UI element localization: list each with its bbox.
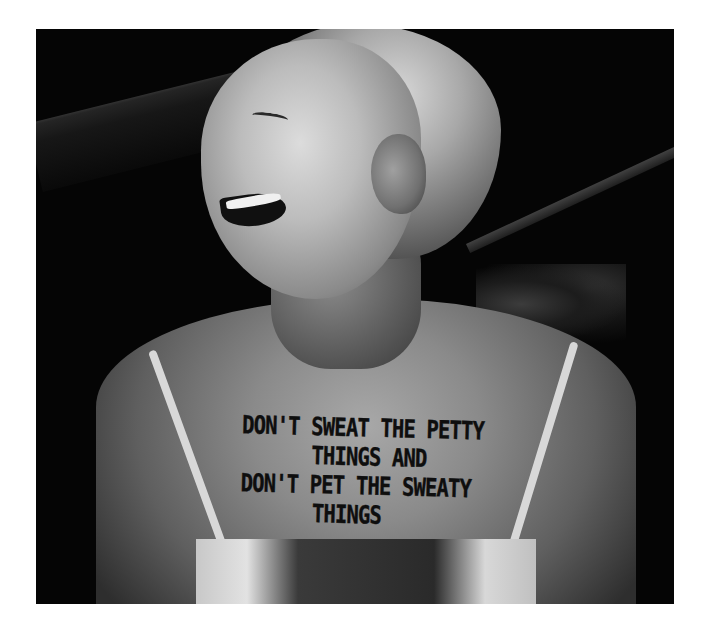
chest-text-line-4: THINGS: [312, 499, 500, 533]
camisole-top: [196, 539, 536, 604]
chest-text-line-1: DON'T SWEAT THE PETTY: [242, 410, 489, 445]
ear: [371, 134, 426, 214]
photograph: DON'T SWEAT THE PETTY THINGS AND DON'T P…: [36, 29, 674, 604]
chest-handwriting: DON'T SWEAT THE PETTY THINGS AND DON'T P…: [230, 410, 543, 534]
chest-text-line-3: DON'T PET THE SWEATY: [240, 468, 487, 503]
